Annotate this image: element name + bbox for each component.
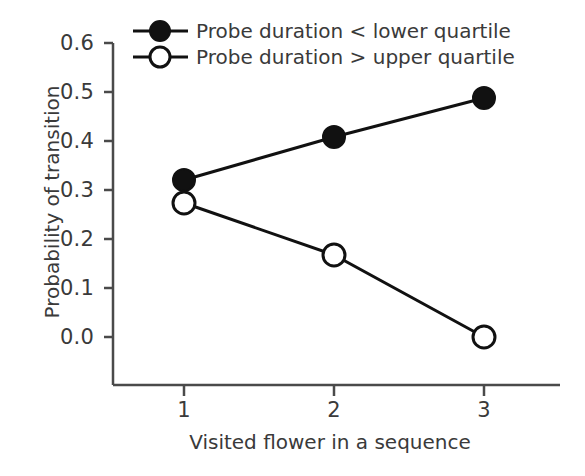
- y-axis-ticks: [104, 43, 113, 337]
- series-filled-lower-quartile: [173, 87, 495, 191]
- chart-figure: 0.6 0.5 0.4 0.3 0.2 0.1 0.0 1 2 3 Probab…: [0, 0, 585, 476]
- data-point-open-3: [473, 326, 495, 348]
- y-tick-label-0.6: 0.6: [34, 31, 94, 55]
- series-line-open: [184, 203, 484, 337]
- legend-label-lower-quartile: Probe duration < lower quartile: [196, 19, 511, 43]
- legend-key-filled: [133, 21, 188, 41]
- x-axis-title: Visited flower in a sequence: [100, 430, 560, 454]
- legend-marker-open-icon: [150, 47, 170, 67]
- legend-key-open: [133, 47, 188, 67]
- legend-label-upper-quartile: Probe duration > upper quartile: [196, 45, 515, 69]
- series-open-upper-quartile: [173, 192, 495, 348]
- x-axis-ticks: [184, 385, 484, 396]
- data-point-filled-2: [323, 126, 345, 148]
- data-point-filled-1: [173, 169, 195, 191]
- x-tick-label-3: 3: [464, 398, 504, 422]
- y-axis-title: Probability of transition: [40, 72, 64, 332]
- x-tick-label-1: 1: [164, 398, 204, 422]
- data-point-open-2: [323, 244, 345, 266]
- data-point-filled-3: [473, 87, 495, 109]
- x-tick-label-2: 2: [314, 398, 354, 422]
- data-point-open-1: [173, 192, 195, 214]
- legend-marker-filled-icon: [150, 21, 170, 41]
- legend: [133, 21, 188, 67]
